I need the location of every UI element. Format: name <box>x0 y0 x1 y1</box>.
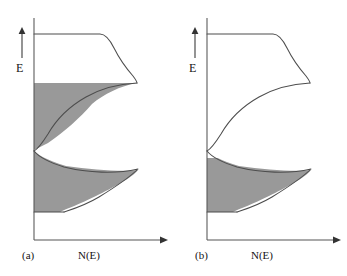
panel-a: E (a) N(E) <box>0 0 174 276</box>
up-arrow-icon-b <box>192 27 199 34</box>
y-axis-label-a: E <box>16 63 23 74</box>
x-axis-label-a: N(E) <box>78 250 100 261</box>
panel-label-b: (b) <box>195 250 208 261</box>
dos-figure: E (a) N(E) <box>0 0 347 276</box>
x-axis-arrow-icon-a <box>160 237 168 244</box>
x-axis-label-b: N(E) <box>251 250 273 261</box>
panel-b-plot <box>173 0 347 276</box>
panel-a-plot <box>0 0 174 276</box>
occupied-states-fill-a <box>34 34 138 212</box>
occupied-states-fill-b <box>207 34 311 212</box>
panel-b: E (b) N(E) <box>173 0 347 276</box>
y-axis-label-b: E <box>189 63 196 74</box>
panel-label-a: (a) <box>22 250 34 261</box>
up-arrow-icon-a <box>19 27 26 34</box>
x-axis-arrow-icon-b <box>333 237 341 244</box>
